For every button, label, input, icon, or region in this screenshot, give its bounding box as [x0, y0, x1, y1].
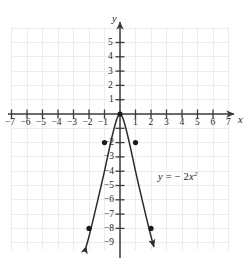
- parabola-curve-right: [120, 114, 154, 247]
- point-neg2-neg8: [86, 226, 91, 231]
- coordinate-plane: [0, 0, 250, 269]
- point-neg1-neg2: [102, 140, 107, 145]
- point-vertex: [117, 111, 122, 116]
- graph-figure: −7 −6 −5 −4 −3 −2 −1 1 2 3 4 5 6 7 5 4 3…: [0, 0, 250, 269]
- point-2-neg8: [148, 226, 153, 231]
- point-1-neg2: [133, 140, 138, 145]
- parabola-curve-left: [86, 114, 120, 247]
